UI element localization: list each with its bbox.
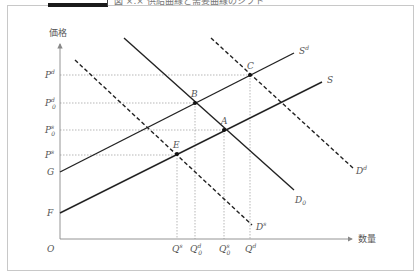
price-label-Pd0: Pd0 (44, 96, 56, 110)
point-label-B: B (190, 89, 198, 99)
intercept-label-G: G (47, 167, 54, 177)
price-label-Pd: Pd (44, 68, 55, 80)
curve-label-D0: D0 (294, 195, 306, 206)
price-label-Ps0: Ps0 (44, 123, 55, 137)
curve-label-Sd: Sd (299, 44, 309, 56)
point-label-C: C (247, 61, 254, 71)
y-axis-label: 価格 (49, 27, 67, 38)
supply-demand-diagram: 価格 数量 O Pd Pd0 Ps0 Ps G F Qs Qd0 Qs0 Qd … (0, 0, 420, 276)
curve-label-S: S (327, 75, 333, 85)
price-label-Ps: Ps (44, 148, 54, 160)
equilibrium-points (175, 73, 252, 156)
origin-label: O (47, 244, 55, 254)
quantity-label-Qs: Qs (172, 242, 182, 254)
point-C (248, 73, 252, 77)
intercept-label-F: F (46, 208, 54, 218)
demand-curve-D0 (124, 38, 294, 190)
curve-label-Ds: Ds (255, 220, 266, 232)
point-label-A: A (220, 116, 228, 126)
point-B (193, 101, 197, 105)
point-label-E: E (172, 140, 180, 150)
supply-curve-S (60, 82, 322, 213)
point-A (222, 128, 226, 132)
x-axis-label: 数量 (358, 233, 376, 244)
quantity-label-Qd0: Qd0 (190, 242, 202, 256)
point-E (175, 152, 179, 156)
demand-curve-Ds (75, 60, 252, 225)
curve-label-Dd: Dd (355, 164, 367, 176)
quantity-label-Qs0: Qs0 (219, 242, 230, 256)
quantity-label-Qd: Qd (245, 242, 256, 254)
demand-curve-Dd (211, 38, 353, 168)
